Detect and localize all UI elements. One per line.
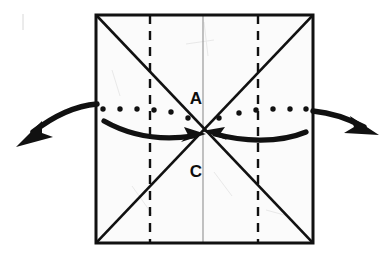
figure-canvas: A C — [0, 0, 389, 260]
outward-arrow-left — [16, 104, 97, 147]
outward-arrow-right — [313, 111, 379, 135]
origami-fold-diagram: A C — [0, 0, 389, 260]
point-c-label: C — [190, 162, 202, 181]
point-a-label: A — [190, 89, 202, 108]
